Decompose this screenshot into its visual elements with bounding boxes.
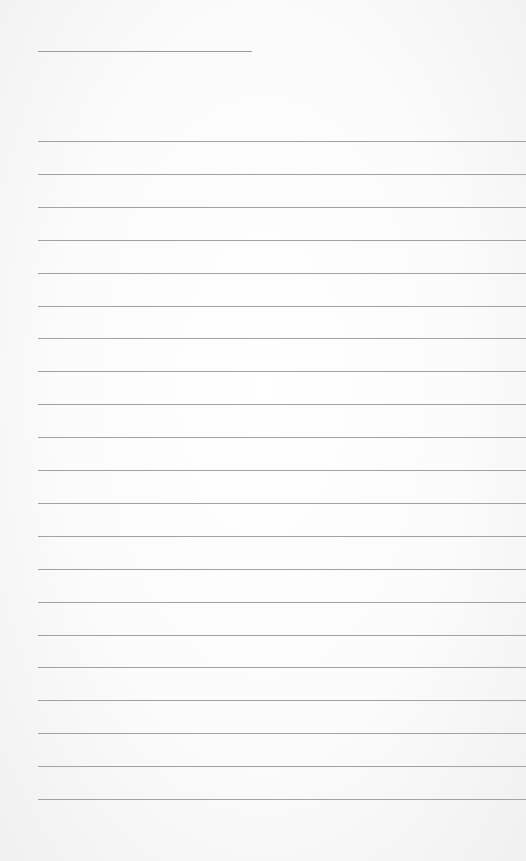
ruled-line[interactable] — [38, 141, 526, 142]
ruled-line[interactable] — [38, 371, 526, 372]
ruled-line[interactable] — [38, 273, 526, 274]
ruled-line[interactable] — [38, 799, 526, 800]
ruled-line[interactable] — [38, 569, 526, 570]
ruled-line[interactable] — [38, 635, 526, 636]
ruled-line[interactable] — [38, 437, 526, 438]
ruled-line[interactable] — [38, 207, 526, 208]
ruled-line[interactable] — [38, 338, 526, 339]
ruled-line[interactable] — [38, 667, 526, 668]
ruled-line[interactable] — [38, 733, 526, 734]
ruled-line[interactable] — [38, 470, 526, 471]
ruled-line[interactable] — [38, 174, 526, 175]
title-line[interactable] — [38, 51, 252, 52]
ruled-line[interactable] — [38, 766, 526, 767]
ruled-line[interactable] — [38, 536, 526, 537]
notepad-page — [0, 0, 526, 861]
ruled-line[interactable] — [38, 503, 526, 504]
ruled-line[interactable] — [38, 602, 526, 603]
ruled-line[interactable] — [38, 240, 526, 241]
ruled-line[interactable] — [38, 306, 526, 307]
ruled-line[interactable] — [38, 404, 526, 405]
ruled-line[interactable] — [38, 700, 526, 701]
